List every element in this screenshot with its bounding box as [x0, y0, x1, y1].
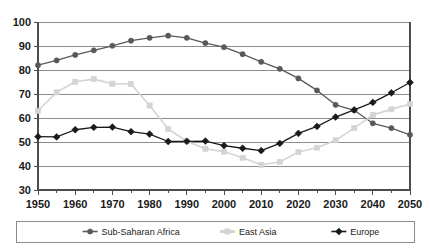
series-europe-point-11: [239, 145, 246, 152]
series-east-asia-point-3: [91, 77, 96, 82]
y-tick-label-80: 80: [19, 64, 31, 76]
series-europe: [35, 79, 414, 154]
series-sub-saharan-africa-point-2: [73, 52, 78, 57]
series-east-asia-point-18: [370, 112, 375, 117]
series-europe-point-13: [276, 140, 283, 147]
series-sub-saharan-africa-point-4: [110, 43, 115, 48]
series-sub-saharan-africa-point-7: [166, 33, 171, 38]
series-sub-saharan-africa-point-13: [277, 66, 282, 71]
x-tick-label-1990: 1990: [175, 198, 199, 210]
y-tick-label-100: 100: [13, 16, 31, 28]
legend-label: East Asia: [239, 227, 277, 237]
series-east-asia-point-0: [35, 108, 40, 113]
y-tick-label-40: 40: [19, 160, 31, 172]
series-europe-point-14: [295, 130, 302, 137]
series-europe-point-6: [146, 131, 153, 138]
series-sub-saharan-africa-point-10: [221, 45, 226, 50]
line-chart: 30405060708090100 1950196019701980199020…: [0, 0, 430, 251]
series-europe-point-1: [53, 134, 60, 141]
x-tick-label-1960: 1960: [63, 198, 87, 210]
series-europe-point-19: [388, 89, 395, 96]
x-tick-label-2020: 2020: [286, 198, 310, 210]
series-east-asia-point-4: [110, 81, 115, 86]
series-europe-point-4: [109, 124, 116, 131]
x-axis-tick-labels: 1950196019701980199020002010202020302040…: [26, 198, 422, 210]
series-sub-saharan-africa-point-3: [91, 48, 96, 53]
series-europe-point-9: [202, 138, 209, 145]
series-europe-point-7: [165, 138, 172, 145]
series-europe-point-18: [369, 99, 376, 106]
x-tick-label-1980: 1980: [137, 198, 161, 210]
legend-marker-2-point-0: [335, 228, 342, 235]
series-east-asia-point-1: [54, 90, 59, 95]
x-tick-label-2040: 2040: [361, 198, 385, 210]
legend-marker-0-point-0: [88, 229, 93, 234]
y-tick-label-30: 30: [19, 184, 31, 196]
legend-label: Europe: [350, 227, 379, 237]
series-sub-saharan-africa-point-9: [203, 41, 208, 46]
series-sub-saharan-africa-point-12: [259, 59, 264, 64]
series-east-asia-point-20: [407, 101, 412, 106]
series-europe-point-3: [90, 124, 97, 131]
series-east-asia-point-2: [73, 79, 78, 84]
y-tick-label-90: 90: [19, 40, 31, 52]
x-tick-label-2030: 2030: [323, 198, 347, 210]
series-east-asia-point-16: [333, 138, 338, 143]
series-east-asia-point-15: [314, 145, 319, 150]
y-tick-label-60: 60: [19, 112, 31, 124]
x-tick-label-2010: 2010: [249, 198, 273, 210]
legend-marker-1-point-0: [225, 229, 230, 234]
x-tick-label-1950: 1950: [26, 198, 50, 210]
x-tick-label-1970: 1970: [100, 198, 124, 210]
series-lines: [35, 33, 414, 167]
series-east-asia-point-19: [389, 107, 394, 112]
series-east-asia-point-10: [221, 149, 226, 154]
x-tick-label-2000: 2000: [212, 198, 236, 210]
y-tick-label-70: 70: [19, 88, 31, 100]
x-tick-label-2050: 2050: [398, 198, 422, 210]
series-sub-saharan-africa-point-11: [240, 52, 245, 57]
series-europe-point-12: [258, 147, 265, 154]
chart-container: 30405060708090100 1950196019701980199020…: [0, 0, 430, 251]
series-sub-saharan-africa-point-1: [54, 58, 59, 63]
y-tick-label-50: 50: [19, 136, 31, 148]
series-sub-saharan-africa-point-19: [389, 125, 394, 130]
series-sub-saharan-africa-point-5: [128, 38, 133, 43]
series-east-asia-point-11: [240, 155, 245, 160]
series-sub-saharan-africa-point-0: [35, 63, 40, 68]
legend-item-east-asia[interactable]: East Asia: [220, 227, 277, 237]
legend-item-sub-saharan-africa[interactable]: Sub-Saharan Africa: [83, 227, 180, 237]
legend-label: Sub-Saharan Africa: [102, 227, 180, 237]
series-sub-saharan-africa-point-20: [407, 132, 412, 137]
series-east-asia-point-17: [352, 125, 357, 130]
series-east-asia-point-6: [147, 103, 152, 108]
legend-item-europe[interactable]: Europe: [331, 227, 379, 237]
series-europe-point-10: [221, 142, 228, 149]
series-europe-point-20: [407, 79, 414, 86]
series-east-asia-point-13: [277, 159, 282, 164]
series-sub-saharan-africa-point-14: [296, 76, 301, 81]
series-line-europe: [38, 82, 410, 150]
series-sub-saharan-africa-point-16: [333, 102, 338, 107]
series-europe-point-16: [332, 114, 339, 121]
series-east-asia-point-5: [128, 81, 133, 86]
series-sub-saharan-africa-point-6: [147, 35, 152, 40]
series-europe-point-15: [314, 123, 321, 130]
series-europe-point-0: [35, 133, 42, 140]
series-east-asia: [35, 77, 412, 168]
series-east-asia-point-14: [296, 149, 301, 154]
y-axis-tick-labels: 30405060708090100: [13, 16, 31, 196]
series-europe-point-5: [128, 128, 135, 135]
series-east-asia-point-7: [166, 126, 171, 131]
series-east-asia-point-9: [203, 146, 208, 151]
series-east-asia-point-12: [259, 162, 264, 167]
series-sub-saharan-africa: [35, 33, 412, 137]
series-sub-saharan-africa-point-18: [370, 121, 375, 126]
series-sub-saharan-africa-point-8: [184, 35, 189, 40]
chart-legend: Sub-Saharan AfricaEast AsiaEurope: [16, 221, 414, 242]
series-sub-saharan-africa-point-15: [314, 88, 319, 93]
series-europe-point-2: [72, 126, 79, 133]
